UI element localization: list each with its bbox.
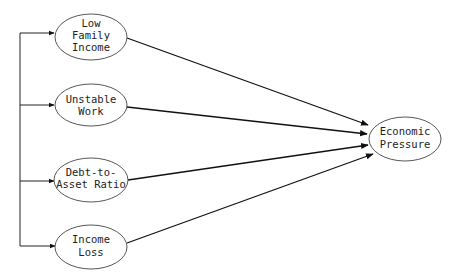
edge-debt-to-asset-ratio-to-economic-pressure bbox=[128, 145, 368, 180]
node-low-family-income: Low Family Income bbox=[55, 14, 127, 60]
node-label-line: Loss bbox=[78, 246, 103, 258]
path-diagram: Low Family Income Unstable Work Debt-to-… bbox=[0, 0, 454, 278]
edge-low-family-income-to-economic-pressure bbox=[127, 38, 368, 125]
node-label-line: Income bbox=[72, 233, 110, 245]
node-label-line: Asset Ratio bbox=[56, 178, 126, 190]
node-economic-pressure: Economic Pressure bbox=[369, 117, 441, 161]
node-label-line: Unstable bbox=[66, 93, 117, 105]
node-label-line: Debt-to- bbox=[66, 166, 117, 178]
node-income-loss: Income Loss bbox=[55, 225, 127, 269]
node-label-line: Economic bbox=[380, 125, 431, 137]
node-label-line: Income bbox=[72, 41, 110, 53]
node-label-line: Pressure bbox=[380, 138, 431, 150]
node-unstable-work: Unstable Work bbox=[55, 84, 127, 126]
node-label-line: Family bbox=[72, 29, 110, 41]
node-debt-to-asset-ratio: Debt-to- Asset Ratio bbox=[54, 158, 128, 202]
node-label-line: Low bbox=[82, 17, 102, 29]
path-edges bbox=[127, 38, 373, 243]
node-label-line: Work bbox=[78, 105, 104, 117]
edge-income-loss-to-economic-pressure bbox=[127, 154, 373, 243]
correlation-bracket bbox=[20, 33, 55, 246]
